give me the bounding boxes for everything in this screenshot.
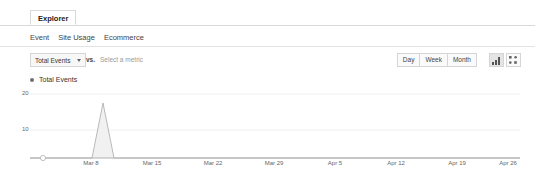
bar-chart-view-button[interactable] bbox=[489, 53, 504, 67]
events-timeseries-chart: 20 10 Mar 8 Mar 15 Mar 22 Mar 29 Apr 5 A… bbox=[0, 86, 535, 184]
series-point-marker bbox=[40, 155, 45, 160]
x-tick-label-4: Apr 5 bbox=[328, 160, 342, 166]
chart-canvas bbox=[0, 86, 535, 184]
chevron-down-icon bbox=[77, 59, 81, 62]
subnav-item-site-usage[interactable]: Site Usage bbox=[58, 33, 95, 43]
x-tick-label-0: Mar 8 bbox=[83, 160, 98, 166]
view-toggle-group bbox=[489, 53, 521, 67]
tab-strip-divider bbox=[0, 25, 535, 26]
secondary-metric-select[interactable]: Select a metric bbox=[100, 56, 143, 63]
motion-chart-icon bbox=[509, 51, 518, 69]
x-tick-label-3: Mar 29 bbox=[265, 160, 284, 166]
vs-label: vs. bbox=[86, 56, 95, 63]
tab-explorer[interactable]: Explorer bbox=[30, 10, 76, 25]
y-tick-label-10: 10 bbox=[22, 126, 29, 132]
chart-legend: Total Events bbox=[30, 76, 77, 83]
chart-controls: Total Events vs. Select a metric Day Wee… bbox=[0, 53, 535, 69]
metric-select-value: Total Events bbox=[35, 57, 70, 64]
motion-chart-view-button[interactable] bbox=[506, 53, 521, 67]
granularity-month-button[interactable]: Month bbox=[448, 53, 477, 67]
x-tick-label-7: Apr 26 bbox=[499, 160, 517, 166]
x-tick-label-1: Mar 15 bbox=[143, 160, 162, 166]
sub-navigation-divider bbox=[0, 46, 535, 47]
granularity-segmented-control: Day Week Month bbox=[397, 53, 477, 67]
bar-chart-icon bbox=[492, 51, 501, 69]
tab-strip: Explorer bbox=[0, 10, 535, 26]
analytics-explorer-panel: Explorer Event Site Usage Ecommerce Tota… bbox=[0, 0, 535, 184]
subnav-item-event[interactable]: Event bbox=[30, 33, 49, 43]
x-tick-label-2: Mar 22 bbox=[204, 160, 223, 166]
x-tick-label-6: Apr 19 bbox=[448, 160, 466, 166]
y-tick-label-20: 20 bbox=[22, 90, 29, 96]
granularity-day-button[interactable]: Day bbox=[397, 53, 421, 67]
metric-select[interactable]: Total Events bbox=[30, 53, 86, 67]
subnav-item-ecommerce[interactable]: Ecommerce bbox=[104, 33, 144, 43]
legend-series-label: Total Events bbox=[39, 76, 77, 83]
legend-marker-icon bbox=[30, 78, 34, 82]
sub-navigation: Event Site Usage Ecommerce bbox=[30, 33, 144, 43]
granularity-week-button[interactable]: Week bbox=[420, 53, 448, 67]
x-tick-label-5: Apr 12 bbox=[387, 160, 405, 166]
